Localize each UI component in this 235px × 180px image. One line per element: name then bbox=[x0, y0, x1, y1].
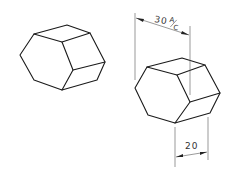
right-mid-edge bbox=[190, 93, 220, 102]
right-front-hex-face bbox=[135, 67, 190, 123]
left-top-edges bbox=[34, 25, 90, 42]
arrowhead-20-left-icon bbox=[176, 154, 183, 157]
dimension-suffix-c: C bbox=[173, 24, 179, 33]
right-hexagonal-prism bbox=[135, 58, 220, 123]
left-right-edges bbox=[62, 33, 105, 90]
left-hexagonal-prism bbox=[20, 25, 105, 90]
arrowhead-right-icon bbox=[181, 31, 189, 35]
dimension-length: 20 bbox=[175, 117, 208, 167]
dimension-value-20: 20 bbox=[185, 141, 198, 151]
drawing-canvas: 30 A C 20 bbox=[0, 0, 235, 180]
left-mid-edge bbox=[73, 62, 105, 70]
arrowhead-left-icon bbox=[136, 18, 144, 22]
right-top-edges bbox=[147, 58, 205, 75]
dimension-across-corners: 30 A C bbox=[135, 13, 190, 95]
left-front-hex-face bbox=[20, 34, 73, 90]
arrowhead-20-right-icon bbox=[200, 152, 207, 155]
